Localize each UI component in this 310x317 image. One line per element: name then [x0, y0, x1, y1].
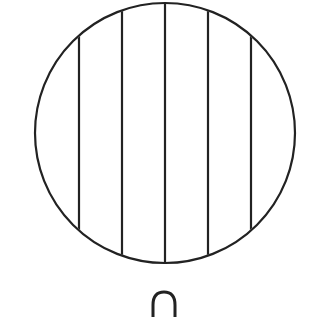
- circle-diagram: [0, 0, 310, 317]
- vertical-lines: [79, 0, 251, 270]
- bottom-loop-shape: [153, 292, 175, 317]
